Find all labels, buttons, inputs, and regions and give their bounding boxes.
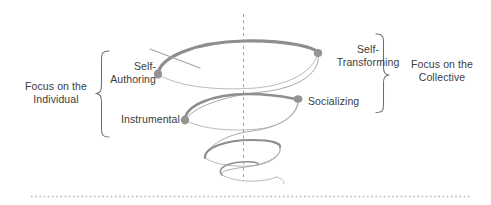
coil-4-back [222,175,277,181]
upper-left-tail [150,49,200,68]
coil-2-back [185,99,298,130]
marker-self-transforming [314,49,322,57]
stage-label-self-transforming: Self- Transforming [330,43,406,68]
marker-socializing [294,95,303,103]
spiral-terminus [277,177,284,184]
stage-label-instrumental: Instrumental [96,113,180,126]
coil-2-to-3-descent [205,99,298,158]
marker-instrumental [181,116,189,125]
diagram-root: Focus on the Individual Focus on the Col… [0,0,491,205]
coil-1-back [158,53,318,89]
spiral-front-segments [158,41,318,184]
coil-1-to-2-descent [185,53,318,120]
focus-on-the-collective-label: Focus on the Collective [392,58,491,83]
stage-label-self-authoring: Self- Authoring [78,60,156,85]
coil-3-back [205,147,280,166]
stage-label-socializing: Socializing [308,95,388,108]
coil-1-front [158,41,318,74]
